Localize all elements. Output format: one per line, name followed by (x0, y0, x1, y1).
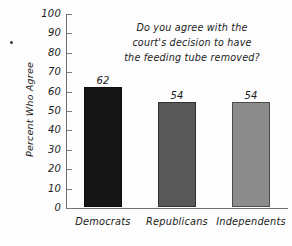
bar-group: 62Democrats (84, 14, 122, 208)
bar[interactable]: 54 (232, 102, 270, 207)
y-tick-label: 30 (31, 145, 61, 155)
y-tick-label: 90 (31, 28, 61, 38)
bar-group: 54Independents (232, 14, 270, 208)
y-tick-label: 20 (31, 164, 61, 174)
x-axis-category-label: Independents (216, 217, 286, 227)
y-tick-mark (67, 111, 72, 112)
y-tick-mark (67, 189, 72, 190)
y-tick-label: 60 (31, 87, 61, 97)
y-tick-label: 50 (31, 106, 61, 116)
y-tick-label: 100 (31, 9, 61, 19)
y-tick-mark (67, 130, 72, 131)
bar-value-label: 54 (244, 91, 257, 101)
y-tick-mark (67, 150, 72, 151)
y-tick-label: 70 (31, 67, 61, 77)
y-tick-mark (67, 53, 72, 54)
bar-chart: Percent Who Agree 1009080706050403020100… (0, 0, 292, 246)
x-axis-line (66, 208, 288, 209)
x-axis-category-label: Democrats (75, 217, 130, 227)
image-speck-artifact (10, 41, 13, 44)
y-tick-label: 0 (31, 203, 61, 213)
y-tick-mark (67, 169, 72, 170)
bar[interactable]: 62 (84, 87, 122, 207)
y-tick-mark (67, 92, 72, 93)
y-tick-label: 80 (31, 48, 61, 58)
y-tick-mark (67, 208, 72, 209)
y-tick-mark (67, 14, 72, 15)
y-tick-label: 10 (31, 184, 61, 194)
bar-group: 54Republicans (158, 14, 196, 208)
x-axis-category-label: Republicans (146, 217, 208, 227)
bar-value-label: 62 (96, 76, 109, 86)
y-tick-mark (67, 33, 72, 34)
plot-area: 1009080706050403020100 Do you agree with… (66, 14, 288, 208)
y-tick-mark (67, 72, 72, 73)
bar-value-label: 54 (170, 91, 183, 101)
bar[interactable]: 54 (158, 102, 196, 207)
y-tick-label: 40 (31, 125, 61, 135)
